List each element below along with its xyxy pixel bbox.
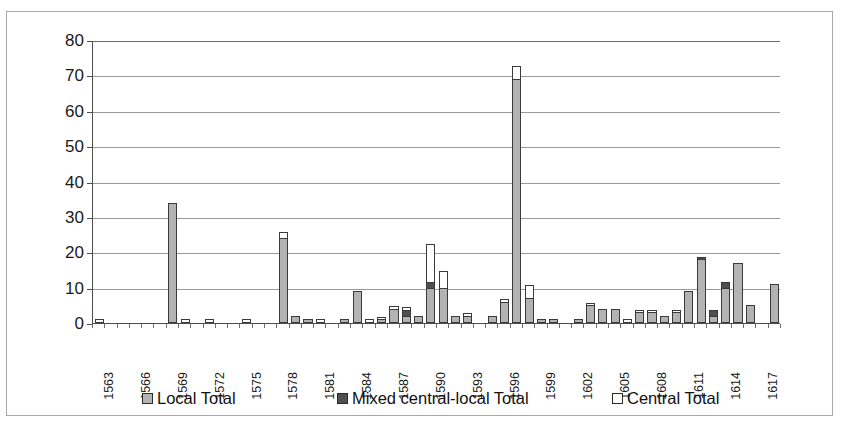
x-axis-tick	[399, 324, 400, 328]
x-axis-tick	[583, 324, 584, 328]
y-axis-label: 20	[44, 244, 84, 261]
bar-segment-local	[721, 288, 730, 323]
x-axis-tick	[522, 324, 523, 328]
bar-group	[95, 319, 104, 323]
bar-segment-local	[598, 309, 607, 323]
bar-group	[353, 291, 362, 323]
x-axis-tick	[153, 324, 154, 328]
x-axis-tick	[129, 324, 130, 328]
bar-group	[525, 285, 534, 323]
bar-segment-local	[389, 309, 398, 323]
bar-group	[463, 313, 472, 323]
bar-segment-central	[242, 319, 251, 323]
legend-item-central[interactable]: Central Total	[612, 390, 719, 407]
bar-group	[512, 66, 521, 323]
bar-group	[672, 310, 681, 323]
bar-segment-local	[500, 302, 509, 323]
x-axis-tick	[448, 324, 449, 328]
bar-group	[647, 310, 656, 323]
x-axis-tick	[424, 324, 425, 328]
bar-group	[733, 263, 742, 323]
bar-segment-local	[697, 259, 706, 323]
bar-group	[746, 305, 755, 323]
x-axis-tick	[620, 324, 621, 328]
bar-group	[574, 319, 583, 323]
bar-segment-local	[340, 319, 349, 323]
x-axis-tick	[485, 324, 486, 328]
bar-segment-central	[316, 319, 325, 323]
bar-segment-local	[525, 298, 534, 323]
legend-label: Local Total	[157, 390, 236, 407]
legend-item-mixed[interactable]: Mixed central-local Total	[337, 390, 529, 407]
bar-segment-local	[451, 316, 460, 323]
y-axis-label: 30	[44, 209, 84, 226]
bar-segment-local	[402, 316, 411, 323]
bar-group	[291, 316, 300, 323]
bar-group	[451, 316, 460, 323]
bar-segment-local	[647, 312, 656, 323]
bar-segment-local	[574, 319, 583, 323]
bar-segment-local	[463, 316, 472, 323]
bar-segment-central	[365, 319, 374, 323]
bar-group	[537, 319, 546, 323]
bar-group	[377, 317, 386, 323]
bar-group	[205, 319, 214, 323]
legend-label: Mixed central-local Total	[352, 390, 529, 407]
x-axis-tick	[510, 324, 511, 328]
x-axis-tick	[571, 324, 572, 328]
y-axis-label: 80	[44, 32, 84, 49]
x-axis-tick	[768, 324, 769, 328]
x-axis-tick	[669, 324, 670, 328]
bar-group	[623, 319, 632, 323]
x-axis-tick	[559, 324, 560, 328]
y-axis-label: 70	[44, 67, 84, 84]
bar-segment-local	[733, 263, 742, 323]
bar-group	[279, 232, 288, 323]
bar-segment-central	[623, 319, 632, 323]
x-axis-tick	[411, 324, 412, 328]
bar-group	[340, 319, 349, 323]
y-axis-label: 0	[44, 315, 84, 332]
bar-group	[414, 316, 423, 323]
x-axis-tick	[608, 324, 609, 328]
bar-series-group	[93, 41, 780, 323]
x-axis-tick	[141, 324, 142, 328]
bar-segment-local	[672, 312, 681, 323]
bar-segment-local	[488, 316, 497, 323]
x-axis-tick	[301, 324, 302, 328]
bar-segment-central	[205, 319, 214, 323]
bar-segment-local	[303, 319, 312, 323]
bar-group	[697, 257, 706, 323]
legend-swatch-icon	[612, 393, 623, 404]
x-axis-tick	[264, 324, 265, 328]
x-axis-tick	[645, 324, 646, 328]
bar-segment-local	[709, 316, 718, 323]
legend-swatch-icon	[337, 393, 348, 404]
x-axis-tick	[289, 324, 290, 328]
bar-group	[586, 303, 595, 323]
x-axis-tick	[375, 324, 376, 328]
bar-group	[316, 319, 325, 323]
x-axis-tick	[497, 324, 498, 328]
legend-item-local[interactable]: Local Total	[142, 390, 236, 407]
x-axis-tick	[755, 324, 756, 328]
x-axis-tick	[313, 324, 314, 328]
x-axis-tick	[338, 324, 339, 328]
x-axis-tick	[178, 324, 179, 328]
x-axis-tick	[547, 324, 548, 328]
bar-group	[709, 310, 718, 323]
x-axis-tick	[743, 324, 744, 328]
bar-segment-local	[684, 291, 693, 323]
x-axis-tick	[731, 324, 732, 328]
x-axis-tick	[166, 324, 167, 328]
bar-group	[770, 284, 779, 323]
bar-group	[426, 244, 435, 323]
x-axis-tick	[596, 324, 597, 328]
bar-segment-local	[439, 288, 448, 323]
bar-group	[389, 306, 398, 323]
bar-group	[402, 307, 411, 323]
bar-group	[365, 319, 374, 323]
x-axis-tick	[117, 324, 118, 328]
bar-group	[439, 271, 448, 323]
x-axis-tick	[215, 324, 216, 328]
